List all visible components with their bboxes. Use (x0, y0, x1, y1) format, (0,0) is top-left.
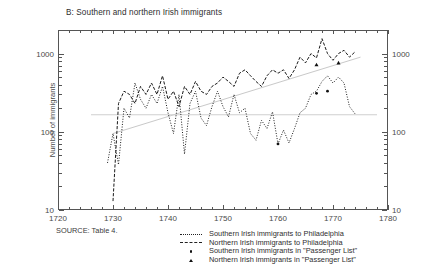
x-tick-label: 1750 (214, 214, 232, 223)
point-marker-dot (315, 92, 318, 95)
y-tick-label: 1000 (392, 49, 410, 58)
figure: B: Southern and northern Irish immigrant… (0, 0, 423, 264)
y-tick-major (382, 210, 387, 211)
point-marker-dot (277, 142, 280, 145)
legend-marker-triangle-point-icon (178, 259, 204, 262)
data-series-layer (58, 30, 388, 210)
dot-point-glyph (190, 250, 192, 252)
y-axis-title: Number of immigrants (48, 83, 57, 158)
point-marker-triangle (315, 63, 319, 67)
legend-marker-dash-dot-line-icon (178, 242, 204, 243)
trend-line-rising-trend (113, 57, 361, 133)
point-marker-triangle (337, 61, 341, 65)
series-line-dotted (108, 76, 356, 165)
legend-item-label: Northern Irish immigrants in "Passenger … (209, 256, 356, 264)
x-tick-label: 1760 (269, 214, 287, 223)
x-tick-label: 1780 (379, 214, 397, 223)
plot-area: 1010100100100010001720173017401750176017… (58, 30, 388, 210)
legend-item: Northern Irish immigrants in "Passenger … (178, 256, 357, 264)
x-tick-major-top (388, 30, 389, 34)
legend: Southern Irish immigrants to Philadelphi… (178, 230, 357, 264)
dash-dot-line-glyph (180, 242, 202, 243)
legend-marker-dotted-line-icon (178, 234, 204, 235)
x-tick-label: 1770 (324, 214, 342, 223)
y-tick-label: 100 (392, 127, 405, 136)
x-tick-label: 1730 (104, 214, 122, 223)
y-tick-label: 1000 (36, 49, 54, 58)
chart-title: B: Southern and northern Irish immigrant… (66, 8, 222, 17)
x-tick-label: 1720 (49, 214, 67, 223)
point-marker-dot (326, 90, 329, 93)
triangle-point-glyph (189, 259, 193, 262)
y-tick-major (59, 210, 64, 211)
series-line-dash-dot (113, 39, 355, 201)
source-note: SOURCE: Table 4. (56, 226, 117, 235)
x-tick-major (388, 205, 389, 210)
x-tick-label: 1740 (159, 214, 177, 223)
legend-marker-dot-point-icon (178, 250, 204, 252)
dotted-line-glyph (180, 234, 202, 235)
